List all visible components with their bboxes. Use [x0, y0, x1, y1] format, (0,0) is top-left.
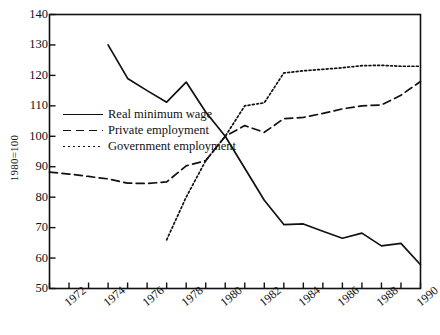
legend-label: Real minimum wage [108, 108, 212, 121]
legend-swatch-solid-icon [63, 108, 103, 120]
x-tick-marks [50, 283, 421, 289]
series-line [108, 45, 420, 265]
legend-swatch-dashed-icon [63, 124, 103, 136]
legend-label: Government employment [108, 140, 236, 153]
legend-swatch-dotted-icon [63, 140, 103, 152]
legend-item: Government employment [63, 138, 236, 154]
series-layer [50, 45, 421, 265]
legend-item: Private employment [63, 122, 236, 138]
chart-legend: Real minimum wagePrivate employmentGover… [63, 106, 236, 154]
legend-item: Real minimum wage [63, 106, 236, 122]
y-tick-marks [50, 15, 56, 289]
legend-label: Private employment [108, 124, 209, 137]
